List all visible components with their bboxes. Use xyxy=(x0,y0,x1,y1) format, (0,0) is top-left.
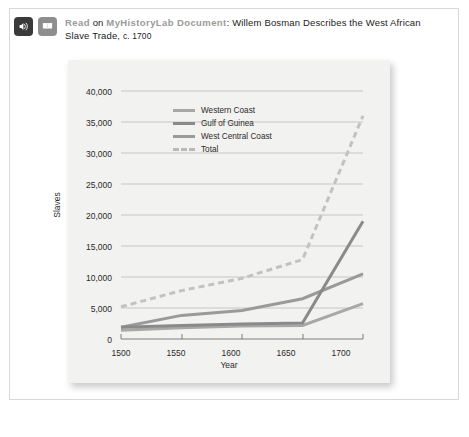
header-source-label[interactable]: MyHistoryLab Document xyxy=(106,17,226,28)
legend-label-gulf-of-guinea: Gulf of Guinea xyxy=(201,119,254,128)
chart-panel: Slaves Year 40,000 35,000 30,000 25,000 … xyxy=(68,60,390,383)
legend-swatch-gulf-of-guinea xyxy=(173,122,195,125)
book-document-icon[interactable] xyxy=(38,17,57,36)
header-on-label: on xyxy=(93,17,104,28)
header-title-line1: Willem Bosman Describes the West African xyxy=(232,17,421,28)
header: Read on MyHistoryLab Document: Willem Bo… xyxy=(14,16,454,50)
audio-listen-icon[interactable] xyxy=(14,17,33,36)
legend-item-west-central-coast: West Central Coast xyxy=(173,130,272,143)
legend-item-total: Total xyxy=(173,143,272,156)
legend-label-west-central-coast: West Central Coast xyxy=(201,132,272,141)
header-read-label: Read xyxy=(65,17,90,28)
legend-item-western-coast: Western Coast xyxy=(173,104,272,117)
axis-lines xyxy=(121,334,363,339)
chart-legend: Western Coast Gulf of Guinea West Centra… xyxy=(173,104,272,156)
legend-swatch-west-central-coast xyxy=(173,135,195,138)
legend-label-western-coast: Western Coast xyxy=(201,106,255,115)
legend-label-total: Total xyxy=(201,145,218,154)
header-title-circa: c. 1700 xyxy=(123,31,152,41)
header-colon: : xyxy=(227,17,230,28)
legend-swatch-total xyxy=(173,148,195,151)
legend-item-gulf-of-guinea: Gulf of Guinea xyxy=(173,117,272,130)
header-text: Read on MyHistoryLab Document: Willem Bo… xyxy=(65,16,421,42)
header-title-line2: Slave Trade, xyxy=(65,30,120,41)
y-axis-label: Slaves xyxy=(52,192,62,218)
legend-swatch-western-coast xyxy=(173,109,195,112)
screenshot-root: Read on MyHistoryLab Document: Willem Bo… xyxy=(0,0,469,437)
